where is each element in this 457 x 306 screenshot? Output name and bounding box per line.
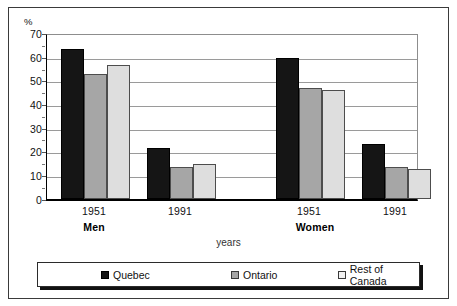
y-tick-label-30: 30 [2,124,42,134]
legend: Quebec Ontario Rest of Canada [37,262,420,287]
y-tick-mark-45 [42,93,45,94]
bar-women-1951-roc [322,90,345,199]
y-tick-mark-5 [42,188,45,189]
y-axis-ticks: 70 60 50 40 30 20 10 0 [0,34,42,201]
y-tick-label-50: 50 [2,76,42,86]
y-tick-label-20: 20 [2,147,42,157]
x-tick-label-women-1951: 1951 [289,205,329,217]
y-tick-label-0: 0 [2,195,42,205]
x-tick-label-men-1991: 1991 [160,205,200,217]
y-tick-mark-25 [42,140,45,141]
bar-women-1991-quebec [362,144,385,200]
plot-frame [46,34,418,201]
y-tick-label-40: 40 [2,100,42,110]
chart-figure: % 70 60 50 40 30 20 10 0 [0,0,457,306]
x-axis-title: years [0,237,457,248]
legend-label-ontario: Ontario [243,269,277,281]
bar-women-1951-quebec [276,58,299,199]
y-tick-mark-35 [42,117,45,118]
y-tick-mark-65 [42,46,45,47]
y-axis-unit-label: % [24,16,32,27]
bar-men-1951-quebec [61,49,84,199]
y-tick-mark-15 [42,164,45,165]
x-tick-label-women-1991: 1991 [375,205,415,217]
x-group-label-women: Women [285,221,345,233]
bar-men-1991-ontario [170,167,193,199]
legend-swatch-quebec-icon [101,271,109,279]
legend-item-ontario: Ontario [231,269,277,281]
y-tick-label-10: 10 [2,171,42,181]
bar-women-1991-ontario [385,167,408,199]
bar-men-1951-roc [107,65,130,199]
y-tick-label-70: 70 [2,29,42,39]
legend-label-rest-of-canada: Rest of Canada [350,263,419,287]
legend-label-quebec: Quebec [113,269,150,281]
y-tick-mark-55 [42,70,45,71]
bar-women-1951-ontario [299,88,322,199]
x-tick-label-men-1951: 1951 [74,205,114,217]
x-group-label-men: Men [70,221,118,233]
bar-men-1991-quebec [147,148,170,199]
bar-men-1951-ontario [84,74,107,199]
legend-swatch-ontario-icon [231,271,239,279]
gridline-60 [47,59,417,60]
legend-swatch-rest-of-canada-icon [338,271,346,279]
bar-men-1991-roc [193,164,216,199]
legend-item-rest-of-canada: Rest of Canada [338,263,419,287]
y-tick-label-60: 60 [2,53,42,63]
plot-area [46,34,418,201]
bar-women-1991-roc [408,169,431,199]
legend-item-quebec: Quebec [101,269,150,281]
